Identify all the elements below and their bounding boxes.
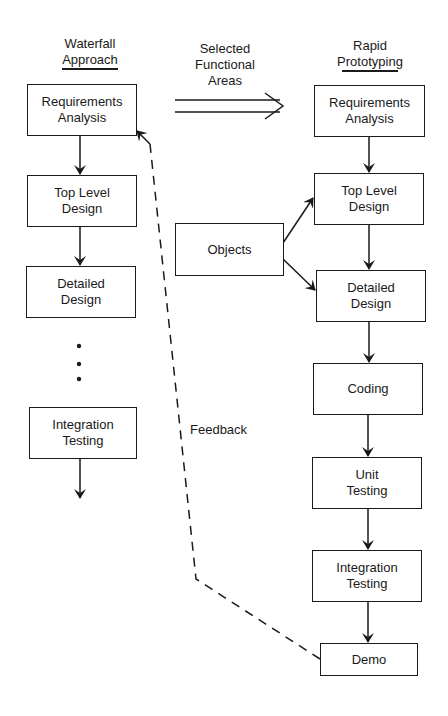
double-arrow bbox=[175, 93, 283, 119]
rapid-integration-testing: Integration Testing bbox=[312, 550, 422, 602]
waterfall-heading: Waterfall Approach bbox=[40, 36, 140, 68]
waterfall-detailed-design: Detailed Design bbox=[26, 266, 136, 318]
rapid-detailed-design: Detailed Design bbox=[316, 270, 426, 322]
rapid-top-level-design: Top Level Design bbox=[314, 173, 424, 225]
waterfall-integration-testing: Integration Testing bbox=[29, 407, 137, 459]
feedback-label: Feedback bbox=[190, 422, 260, 438]
rapid-underline bbox=[342, 70, 398, 72]
rapid-coding: Coding bbox=[313, 363, 423, 415]
ellipsis-dots bbox=[77, 344, 81, 381]
waterfall-underline bbox=[62, 68, 118, 70]
rapid-requirements-analysis: Requirements Analysis bbox=[314, 85, 425, 137]
waterfall-requirements-analysis: Requirements Analysis bbox=[27, 84, 137, 136]
waterfall-top-level-design: Top Level Design bbox=[27, 175, 137, 227]
rapid-unit-testing: Unit Testing bbox=[312, 457, 422, 509]
rapid-demo: Demo bbox=[320, 643, 418, 676]
rapid-heading: Rapid Prototyping bbox=[320, 38, 420, 70]
objects-box: Objects bbox=[175, 223, 284, 276]
feedback-path bbox=[137, 131, 320, 659]
selected-areas-label: Selected Functional Areas bbox=[185, 41, 265, 89]
